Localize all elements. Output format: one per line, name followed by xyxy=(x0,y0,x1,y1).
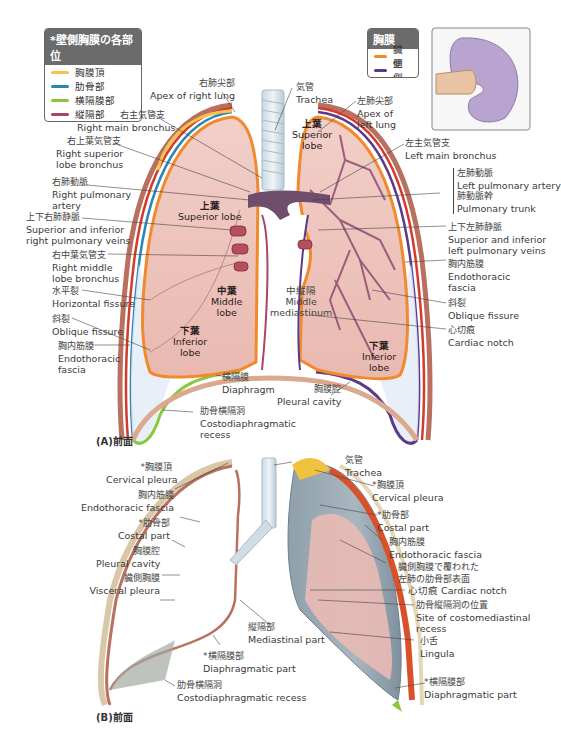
legend-pleura: 胸膜 臓側 壁側 xyxy=(367,28,419,78)
legend-item-parietal: 壁側 xyxy=(368,63,418,77)
label-endothoracic-fascia-b-left: 胸内筋膜Endothoracic fascia xyxy=(74,490,174,513)
label-oblique-fissure-left: 斜裂Oblique fissure xyxy=(448,298,519,321)
organ-right-inferior-lobe: 下葉Inferiorlobe xyxy=(173,325,207,358)
organ-right-superior-lobe: 上葉Superior lobe xyxy=(178,200,242,222)
organ-right-middle-lobe: 中葉Middlelobe xyxy=(211,285,242,318)
label-apex-left-lung: 左肺尖部Apex ofleft lung xyxy=(357,96,396,131)
label-visceral-covered-surface: 臓側胸膜で覆われた左肺の肋骨部表面 xyxy=(398,562,479,585)
label-endothoracic-fascia-b-right: 胸内筋膜Endothoracic fascia xyxy=(389,537,482,560)
label-right-superior-lobe-bronchus: 右上葉気管支Right superiorlobe bronchus xyxy=(56,136,121,171)
trachea xyxy=(262,90,284,190)
label-visceral-pleura: 臓側胸膜Visceral pleura xyxy=(66,573,160,596)
label-right-pulmonary-artery: 右肺動脈Right pulmonaryartery xyxy=(52,177,131,212)
label-apex-right-lung: 右肺尖部Apex of right lung xyxy=(150,78,235,101)
legend-item-cervical: 胸膜頂 xyxy=(45,65,141,79)
label-costomediastinal-recess: 肋骨縦隔洞の位置Site of costomediastinalrecess xyxy=(416,600,530,635)
label-left-main-bronchus: 左主気管支Left main bronchus xyxy=(405,138,496,161)
organ-middle-mediastinum: 中縦隔Middlemediastinum xyxy=(270,285,332,318)
label-cervical-pleura-b-left: *胸膜頂Cervical pleura xyxy=(106,462,172,485)
label-diaphragm: 横隔膜Diaphragm xyxy=(222,372,275,395)
caption-panel-a: (A)前面 xyxy=(96,433,133,448)
label-horizontal-fissure: 水平裂Horizontal fissure xyxy=(52,286,135,309)
panel-a-drawing xyxy=(120,90,430,443)
label-costal-part-b-left: *肋骨部Costal part xyxy=(110,518,170,541)
label-trachea-a: 気管Trachea xyxy=(296,82,333,105)
organ-left-inferior-lobe: 下葉Inferiorlobe xyxy=(362,340,396,373)
label-pulmonary-trunk-jp: 肺動脈幹 xyxy=(457,191,561,203)
label-costal-part-b-right: *肋骨部Costal part xyxy=(377,510,429,533)
label-left-pulmonary-artery: 左肺動脈Left pulmonary artery 肺動脈幹Pulmonary … xyxy=(453,168,561,214)
legend-item-diaphragmatic: 横隔膜部 xyxy=(45,93,141,107)
label-oblique-fissure-right: 斜裂Oblique fissure xyxy=(52,314,123,337)
caption-panel-b: (B)前面 xyxy=(96,709,133,724)
label-left-pulmonary-veins: 上下左肺静脈Superior and inferiorleft pulmonar… xyxy=(448,222,546,257)
label-trachea-b: 気管Trachea xyxy=(345,455,382,478)
label-cervical-pleura-b-right: *胸膜頂Cervical pleura xyxy=(372,480,444,503)
label-right-main-bronchus: 右主気管支Right main bronchus xyxy=(77,110,165,133)
legend-parietal-title: *壁側胸膜の各部位 xyxy=(45,29,141,65)
legend-parietal-pleura: *壁側胸膜の各部位 胸膜頂 肋骨部 横隔膜部 縦隔部 xyxy=(44,28,142,122)
label-endothoracic-fascia-left: 胸内筋膜Endothoracicfascia xyxy=(448,259,510,294)
label-diaphragmatic-part-b-left: *横隔膜部Diaphragmatic part xyxy=(203,651,296,674)
inset-balloon-analogy xyxy=(432,28,530,130)
legend-item-costal: 肋骨部 xyxy=(45,79,141,93)
label-mediastinal-part: 縦隔部Mediastinal part xyxy=(248,622,325,645)
label-right-pulmonary-veins: 上下右肺静脈Superior and inferiorright pulmona… xyxy=(26,212,131,247)
label-lingula: 小舌Lingula xyxy=(420,636,454,659)
label-cardiac-notch-a: 心切痕Cardiac notch xyxy=(448,325,514,348)
label-costodiaphragmatic-recess-a: 肋骨横隔洞Costodiaphragmaticrecess xyxy=(200,406,296,441)
label-cardiac-notch-b: 心切痕 Cardiac notch xyxy=(408,585,507,597)
label-pleural-cavity-a: 胸膜腔Pleural cavity xyxy=(277,384,341,407)
label-right-middle-lobe-bronchus: 右中葉気管支Right middlelobe bronchus xyxy=(52,250,119,285)
label-endothoracic-fascia-right: 胸内筋膜Endothoracicfascia xyxy=(58,341,120,376)
label-costodiaphragmatic-recess-b: 肋骨横隔洞Costodiaphragmatic recess xyxy=(177,680,306,703)
label-diaphragmatic-part-b-right: *横隔膜部Diaphragmatic part xyxy=(424,677,517,700)
label-pleural-cavity-b: 胸膜腔Pleural cavity xyxy=(96,546,160,569)
label-pulmonary-trunk-en: Pulmonary trunk xyxy=(457,203,561,215)
organ-left-superior-lobe: 上葉Superiorlobe xyxy=(292,118,332,151)
